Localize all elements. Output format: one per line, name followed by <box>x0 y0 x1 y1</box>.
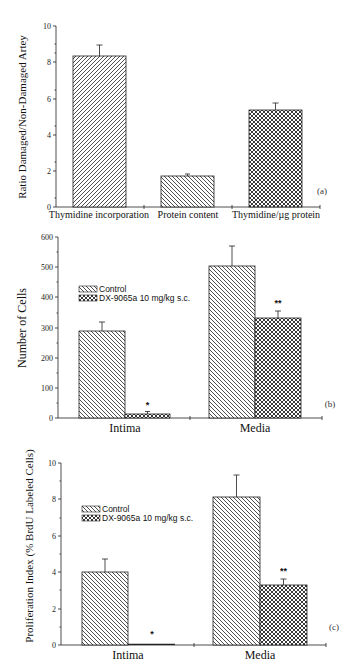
panel-a: Ratio Damaged/Non-Damaged Artey 0 2 4 6 … <box>16 22 327 220</box>
y-tick-label: 200 <box>41 354 53 363</box>
x-category-label: Protein content <box>158 209 219 220</box>
y-tick-label: 600 <box>41 233 53 242</box>
y-tick-label: 6 <box>52 532 56 541</box>
panel-b: Number of Cells 0 100 200 300 400 500 60… <box>15 233 335 435</box>
x-category-label: Thymidine incorporation <box>49 209 149 220</box>
legend-swatch-control <box>82 506 100 512</box>
x-category-label: Intima <box>109 421 141 435</box>
legend-label-dx9065a: DX-9065a 10 mg/kg s.c. <box>99 293 190 303</box>
y-axis-label: Number of Cells <box>15 288 29 368</box>
y-tick-label: 10 <box>43 22 51 31</box>
x-category-label: Media <box>240 421 271 435</box>
panel-c: Proliferation Index (% BrdU Labeled Cell… <box>23 449 339 662</box>
y-tick-label: 100 <box>41 384 53 393</box>
y-axis-label: Ratio Damaged/Non-Damaged Artey <box>16 35 28 199</box>
significance-marker: ** <box>280 566 288 576</box>
panel-tag: (b) <box>325 399 336 409</box>
bar-media-dx9065a <box>255 318 301 418</box>
legend-swatch-control <box>79 286 97 292</box>
significance-marker: * <box>150 629 154 639</box>
figure: Ratio Damaged/Non-Damaged Artey 0 2 4 6 … <box>0 0 358 672</box>
y-tick-label: 2 <box>52 605 56 614</box>
y-tick-label: 300 <box>41 324 53 333</box>
y-ticks <box>58 463 61 645</box>
y-tick-label: 2 <box>47 167 51 176</box>
bar-protein-content <box>161 176 214 207</box>
bar-media-dx9065a <box>260 585 307 645</box>
y-tick-label: 6 <box>47 95 51 104</box>
y-tick-label: 500 <box>41 263 53 272</box>
legend-swatch-dx9065a <box>79 295 97 301</box>
bar-media-control <box>213 497 260 645</box>
significance-marker: ** <box>274 298 282 308</box>
y-tick-label: 8 <box>47 58 51 67</box>
bar-intima-control <box>82 572 128 645</box>
panel-tag: (a) <box>317 186 327 196</box>
x-category-label: Thymidine/µg protein <box>232 209 320 220</box>
bar-intima-control <box>79 331 125 418</box>
bar-thymidine-incorporation <box>73 56 126 207</box>
x-category-label: Media <box>245 648 276 662</box>
x-category-label: Intima <box>112 648 144 662</box>
y-tick-label: 4 <box>52 568 56 577</box>
legend-label-dx9065a: DX-9065a 10 mg/kg s.c. <box>102 513 193 523</box>
bar-thymidine-per-protein <box>249 110 302 207</box>
bar-intima-dx9065a <box>125 414 170 418</box>
y-ticks <box>53 26 56 207</box>
legend: Control DX-9065a 10 mg/kg s.c. <box>82 504 193 523</box>
panel-tag: (c) <box>329 622 339 632</box>
y-tick-label: 400 <box>41 293 53 302</box>
legend-swatch-dx9065a <box>82 515 100 521</box>
y-axis-label: Proliferation Index (% BrdU Labeled Cell… <box>23 449 36 643</box>
bar-media-control <box>209 266 255 418</box>
y-tick-label: 0 <box>52 641 56 650</box>
y-tick-label: 8 <box>52 495 56 504</box>
y-tick-label: 10 <box>48 459 56 468</box>
y-ticks <box>55 237 58 418</box>
significance-marker: * <box>146 400 150 410</box>
y-tick-label: 0 <box>49 414 53 423</box>
y-tick-label: 4 <box>47 131 51 140</box>
legend: Control DX-9065a 10 mg/kg s.c. <box>79 284 190 303</box>
